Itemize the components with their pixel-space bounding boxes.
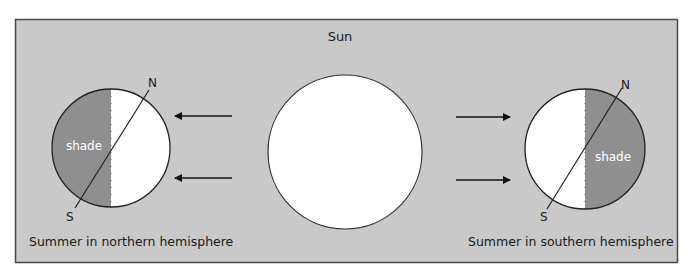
caption-southern: Summer in southern hemisphere [468, 234, 674, 249]
north-label: N [148, 76, 157, 90]
sun-label: Sun [328, 29, 353, 44]
shade-label: shade [595, 150, 631, 164]
south-label: S [66, 210, 74, 224]
north-label: N [621, 78, 630, 92]
caption-northern: Summer in northern hemisphere [29, 234, 234, 249]
south-label: S [540, 210, 548, 224]
earth-southern-summer [525, 88, 645, 209]
seasons-diagram: Sun N S shade Summer in northern hemisph… [0, 0, 696, 277]
shade-label: shade [66, 139, 102, 153]
sun [268, 75, 422, 229]
